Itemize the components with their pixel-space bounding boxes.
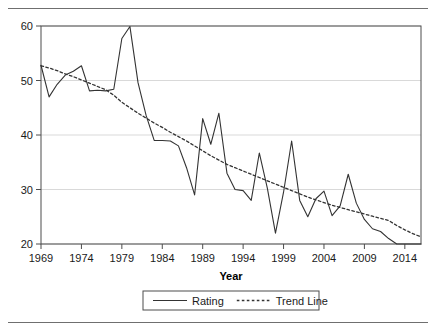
x-tick-label: 1979: [110, 252, 134, 264]
x-axis-ticks: [41, 244, 405, 249]
y-tick-label: 20: [21, 238, 33, 250]
legend-label-rating: Rating: [192, 295, 224, 307]
bottom-divider-rule: [8, 322, 428, 323]
gridlines: [41, 26, 421, 244]
x-axis-tick-labels: 1969197419791984198919941999200420092014: [29, 252, 417, 264]
x-tick-label: 1994: [231, 252, 255, 264]
x-tick-label: 1969: [29, 252, 53, 264]
series-line-trend-line: [41, 66, 421, 237]
top-divider-rule: [8, 8, 428, 9]
chart-figure: 2030405060 19691974197919841989199419992…: [0, 0, 436, 333]
x-tick-label: 1974: [69, 252, 93, 264]
x-axis-title: Year: [219, 270, 243, 282]
line-chart: 2030405060 19691974197919841989199419992…: [0, 0, 436, 333]
legend-label-trend-line: Trend Line: [276, 295, 328, 307]
y-tick-label: 60: [21, 20, 33, 32]
x-tick-label: 1989: [190, 252, 214, 264]
x-tick-label: 1999: [271, 252, 295, 264]
x-tick-label: 1984: [150, 252, 174, 264]
y-axis-ticks: [36, 26, 41, 244]
x-tick-label: 2009: [352, 252, 376, 264]
y-tick-label: 30: [21, 184, 33, 196]
y-axis-tick-labels: 2030405060: [21, 20, 33, 250]
y-tick-label: 40: [21, 129, 33, 141]
chart-legend: RatingTrend Line: [143, 291, 328, 310]
x-tick-label: 2014: [393, 252, 417, 264]
x-tick-label: 2004: [312, 252, 336, 264]
y-tick-label: 50: [21, 75, 33, 87]
